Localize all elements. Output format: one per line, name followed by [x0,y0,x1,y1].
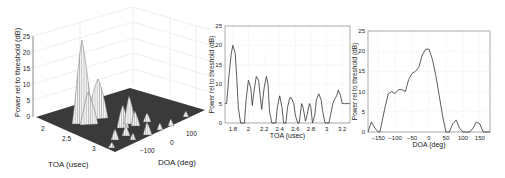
y-tick-label: 25 [358,28,365,34]
y-axis-label: Power rel to threshold (dB) [351,43,359,120]
y-tick-label: 15 [358,68,365,74]
svg-text:0: 0 [26,113,30,120]
svg-text:5: 5 [26,97,30,104]
3d-z-label: Power rel to threshold (dB) [13,27,22,117]
svg-text:−100: −100 [140,147,155,154]
y-tick-label: 0 [219,120,223,126]
svg-text:2.5: 2.5 [62,135,71,142]
svg-text:10: 10 [23,81,31,88]
surface-plot-3d: 0 5 10 15 20 25 Power rel to threshold (… [13,7,210,169]
svg-text:2: 2 [41,125,45,132]
y-tick-label: 10 [215,81,222,87]
x-tick-label: 3.2 [338,126,347,132]
svg-text:15: 15 [23,65,31,72]
svg-text:25: 25 [23,33,31,40]
grid [368,31,490,132]
y-tick-label: 5 [219,101,223,107]
x-tick-label: 3 [325,126,329,132]
tick-labels: −150−100−500501001500510152025 [358,28,485,141]
y-tick-label: 25 [215,23,222,29]
x-tick-label: −100 [388,135,402,141]
x-tick-label: 150 [475,135,486,141]
doa-line-plot: −150−100−500501001500510152025DOA (deg)P… [351,28,490,149]
3d-doa-label: DOA (deg) [158,158,196,167]
y-tick-label: 15 [215,62,222,68]
y-tick-label: 20 [215,42,222,48]
x-axis-label: DOA (deg) [412,141,445,149]
tick-labels: 1.822.22.42.62.833.20510152025 [215,23,347,132]
x-tick-label: 1.8 [229,126,238,132]
x-tick-label: 100 [458,135,469,141]
3d-grid [33,7,210,104]
y-tick-label: 10 [358,89,365,95]
3d-toa-label: TOA (usec) [48,160,89,169]
3d-z-ticks: 0 5 10 15 20 25 [23,33,31,120]
svg-text:3: 3 [92,145,96,152]
x-axis-label: TOA (usec) [270,132,305,140]
figure: 0 5 10 15 20 25 Power rel to threshold (… [0,0,505,178]
toa-line-plot: 1.822.22.42.62.833.20510152025TOA (usec)… [208,23,350,140]
y-tick-label: 5 [362,109,366,115]
svg-text:0: 0 [170,139,174,146]
y-axis-label: Power rel to threshold (dB) [208,36,216,113]
svg-text:20: 20 [23,49,31,56]
svg-text:100: 100 [186,130,197,137]
x-tick-label: 2 [247,126,251,132]
x-tick-label: 2.8 [307,126,316,132]
x-tick-label: 2.2 [260,126,269,132]
y-tick-label: 20 [358,48,365,54]
x-tick-label: −150 [371,135,385,141]
y-tick-label: 0 [362,129,366,135]
